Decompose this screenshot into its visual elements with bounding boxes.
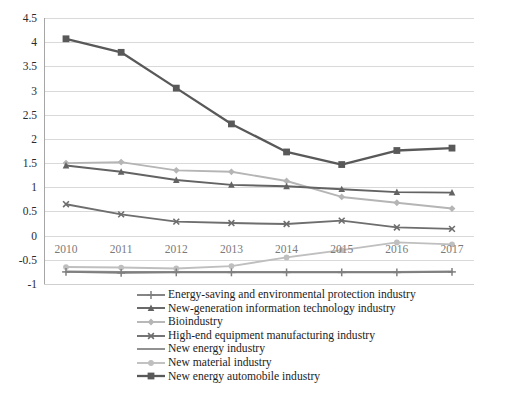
x-axis-tick-label: 2014 <box>275 243 298 255</box>
x-axis-tick-label: 2010 <box>55 243 78 255</box>
y-axis-tick-label: -1 <box>27 278 37 290</box>
legend-item-label: Energy-saving and environmental protecti… <box>168 288 416 302</box>
y-axis-tick-label: -0.5 <box>19 254 37 266</box>
legend-marker-icon <box>136 357 166 369</box>
x-axis-tick-label: 2015 <box>330 243 353 255</box>
legend-item[interactable]: Energy-saving and environmental protecti… <box>136 288 466 302</box>
y-axis-tick-label: 4 <box>31 36 37 48</box>
y-axis-tick-label: 3 <box>31 85 37 97</box>
legend-item[interactable]: New material industry <box>136 356 466 370</box>
legend-item[interactable]: High-end equipment manufacturing industr… <box>136 329 466 343</box>
y-axis-tick-label: 0 <box>31 230 37 242</box>
legend-item-label: New energy automobile industry <box>168 370 320 384</box>
y-axis-tick-label: 3.5 <box>23 60 37 72</box>
x-axis-tick-label: 2017 <box>441 243 464 255</box>
legend-item[interactable]: New-generation information technology in… <box>136 302 466 316</box>
legend-item[interactable]: New energy industry <box>136 342 466 356</box>
x-axis-tick-label: 2016 <box>385 243 408 255</box>
legend-marker-icon <box>136 330 166 342</box>
legend-item-label: High-end equipment manufacturing industr… <box>168 329 375 343</box>
y-axis-tick-label: 4.5 <box>23 12 37 24</box>
legend-item-label: New-generation information technology in… <box>168 302 396 316</box>
legend-marker-icon <box>136 370 166 382</box>
legend-marker-icon <box>136 289 166 301</box>
gridline <box>44 284 474 285</box>
legend-item[interactable]: Bioindustry <box>136 315 466 329</box>
plot-area: 4.543.532.521.510.50-0.5-1 2010201120122… <box>0 0 512 290</box>
y-axis-labels: 4.543.532.521.510.50-0.5-1 <box>0 18 42 284</box>
legend-item-label: New material industry <box>168 356 272 370</box>
legend-item[interactable]: New energy automobile industry <box>136 370 466 384</box>
legend-item-label: Bioindustry <box>168 315 223 329</box>
y-axis-tick-label: 2 <box>31 133 37 145</box>
x-axis-tick-label: 2013 <box>220 243 243 255</box>
legend-marker-icon <box>136 316 166 328</box>
x-axis-labels: 20102011201220132014201520162017 <box>44 18 474 284</box>
y-axis-tick-label: 0.5 <box>23 205 37 217</box>
chart-legend: Energy-saving and environmental protecti… <box>136 288 466 383</box>
x-axis-tick-label: 2012 <box>165 243 188 255</box>
y-axis-tick-label: 2.5 <box>23 109 37 121</box>
legend-item-label: New energy industry <box>168 342 265 356</box>
y-axis-tick-label: 1 <box>31 181 37 193</box>
y-axis-tick-label: 1.5 <box>23 157 37 169</box>
legend-marker-icon <box>136 343 166 355</box>
legend-marker-icon <box>136 302 166 314</box>
x-axis-tick-label: 2011 <box>110 243 133 255</box>
chart-figure: 4.543.532.521.510.50-0.5-1 2010201120122… <box>0 0 512 394</box>
